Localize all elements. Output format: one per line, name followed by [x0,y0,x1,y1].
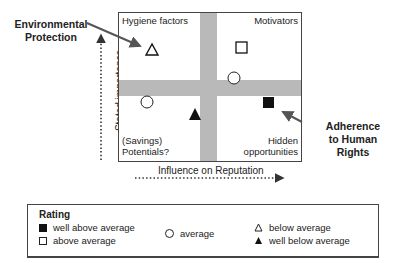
quadrant-label-savings-line1: (Savings) [122,135,169,146]
quadrant-label-hygiene-factors: Hygiene factors [122,15,188,26]
portfolio-matrix: Hygiene factors Motivators (Savings) Pot… [118,12,302,162]
x-axis-label: Influence on Reputation [158,165,264,176]
legend-label: well below average [269,235,350,246]
callout-human-rights-line2: to Human [318,133,388,146]
legend-label: average [180,228,214,239]
legend-item-above-average: above average [39,235,116,246]
square-filled-icon [39,224,47,232]
legend: Rating well above average above average … [27,204,379,258]
callout-environmental-line2: Protection [12,31,90,44]
horizontal-divider-band [119,80,301,96]
quadrant-label-hidden-opportunities: Hidden opportunities [244,135,298,157]
legend-item-below-average: below average [254,222,331,233]
callout-human-rights-line3: Rights [318,146,388,159]
callout-human-rights-line1: Adherence [318,120,388,133]
square-open-icon [39,237,47,245]
legend-title: Rating [39,209,70,220]
legend-label: well above average [53,222,135,233]
quadrant-label-motivators: Motivators [254,15,298,26]
callout-environmental-protection: Environmental Protection [12,18,90,44]
circle-icon [165,229,174,238]
triangle-open-icon [254,223,263,232]
quadrant-label-savings-potentials: (Savings) Potentials? [122,135,169,157]
quadrant-label-savings-line2: Potentials? [122,146,169,157]
callout-environmental-line1: Environmental [12,18,90,31]
quadrant-label-hidden-line1: Hidden [244,135,298,146]
callout-human-rights: Adherence to Human Rights [318,120,388,159]
legend-item-average: average [165,228,214,239]
legend-item-well-below-average: well below average [254,235,350,246]
legend-label: below average [269,222,331,233]
legend-label: above average [53,235,116,246]
triangle-filled-icon [254,236,263,245]
quadrant-label-hidden-line2: opportunities [244,146,298,157]
legend-item-well-above-average: well above average [39,222,135,233]
